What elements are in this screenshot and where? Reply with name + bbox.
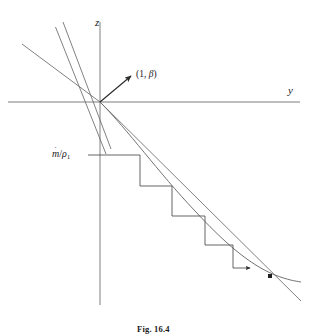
rho-subscript: 1 bbox=[67, 153, 71, 161]
convergence-point-marker bbox=[268, 274, 272, 278]
z-axis-label: z bbox=[95, 17, 99, 28]
steep-line-2 bbox=[56, 27, 107, 154]
vector-label-close: ) bbox=[153, 69, 156, 79]
direction-vector-label: (1, β) bbox=[136, 70, 157, 80]
vector-label-open: (1, bbox=[136, 69, 149, 79]
shallow-line-upper-left bbox=[22, 44, 100, 102]
figure-caption: Fig. 16.4 bbox=[137, 325, 170, 334]
y-axis-label: y bbox=[288, 85, 293, 96]
mdot-overdot: ˙ bbox=[54, 147, 57, 155]
staircase-path bbox=[100, 155, 250, 268]
mdot-over-rho1-label: m˙/ρ1 bbox=[52, 149, 70, 161]
mdot-glyph: m˙ bbox=[52, 149, 59, 159]
solution-curve bbox=[100, 102, 301, 282]
cobweb-staircase bbox=[100, 155, 250, 268]
steep-line-1 bbox=[63, 22, 111, 149]
main-chord-line bbox=[100, 102, 301, 301]
unit-direction-vector-arrow bbox=[100, 76, 131, 102]
line-fan-group bbox=[22, 22, 301, 301]
